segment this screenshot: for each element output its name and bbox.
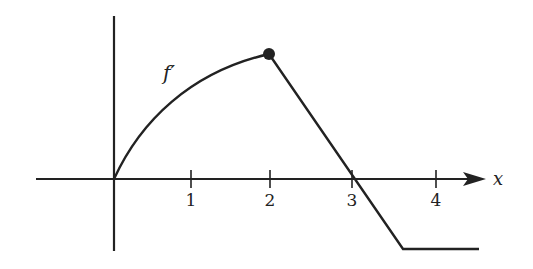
x-tick-label-3: 3: [347, 190, 358, 210]
graph-of-f-prime: 1 2 3 4 x f′: [0, 0, 533, 269]
function-label: f′: [161, 61, 175, 85]
x-tick-label-4: 4: [431, 190, 442, 210]
x-tick-label-1: 1: [186, 190, 197, 210]
f-prime-curve: [114, 54, 269, 179]
peak-point-dot: [263, 48, 275, 60]
x-axis-label: x: [493, 168, 503, 189]
f-prime-linear-segments: [269, 54, 479, 249]
x-tick-label-2: 2: [265, 190, 276, 210]
